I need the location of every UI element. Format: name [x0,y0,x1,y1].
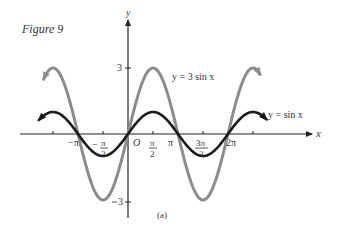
tick-label-half-pi: π 2 [149,138,157,159]
numerator: π [150,138,155,148]
series-label-3sinx: y = 3 sin x [172,71,214,82]
value: 3 [118,196,123,207]
sine-graph-figure: Figure 9 x y −π − π 2 O π 2 π 3π 2 2π [0,0,342,239]
denominator: 2 [101,149,106,159]
figure-caption: (a) [157,210,167,220]
denominator: 2 [150,149,155,159]
y-tick-label-neg-3: 3 [112,196,123,207]
figure-title: Figure 9 [21,22,63,36]
y-tick-label-3: 3 [117,62,122,73]
series-label-sinx: y = sin x [268,109,303,120]
tick-label-pi: π [168,137,173,148]
x-axis-label: x [315,127,321,139]
numerator: π [101,138,106,148]
numerator: 3π [196,138,206,148]
minus-sign: − [92,139,98,150]
tick-label-neg-pi: −π [68,137,79,148]
y-axis-label: y [125,7,131,18]
denominator: 2 [199,149,204,159]
origin-label: O [133,137,140,148]
